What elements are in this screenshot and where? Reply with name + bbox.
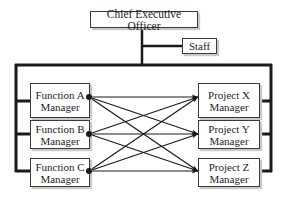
org-chart: Chief Executive Officer Staff Function A… (0, 0, 285, 204)
connection-dots (0, 0, 285, 204)
function-c-dot-icon (86, 168, 92, 174)
function-b-dot-icon (86, 131, 92, 137)
function-a-dot-icon (86, 94, 92, 100)
